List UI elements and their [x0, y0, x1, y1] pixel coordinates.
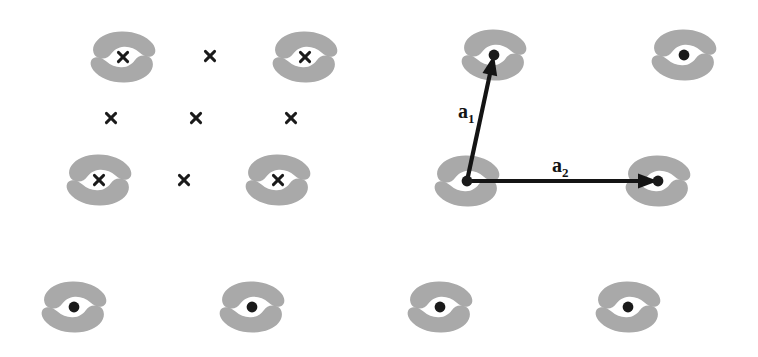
lattice-point-dot — [435, 302, 446, 313]
lattice-point-dot — [679, 50, 690, 61]
lattice-point-cross — [179, 175, 188, 184]
lattice-point-dot — [247, 302, 258, 313]
lattice-point-cross — [106, 113, 115, 122]
vector-label-subscript: 1 — [468, 111, 475, 126]
lattice-point-cross — [286, 113, 295, 122]
lattice-point-cross — [300, 52, 309, 61]
vector-label-subscript: 2 — [562, 165, 569, 180]
vector-label-base: a — [458, 100, 468, 122]
lattice-point-dot — [489, 50, 500, 61]
lattice-point-cross — [118, 52, 127, 61]
lattice-point-cross — [273, 175, 282, 184]
vector-label-base: a — [552, 154, 562, 176]
vector-label-a1: a1 — [458, 100, 475, 126]
lattice-point-dot — [69, 302, 80, 313]
lattice-canvas: a1a2 — [0, 0, 758, 357]
lattice-point-dot — [462, 176, 473, 187]
lattice-point-dot — [623, 302, 634, 313]
vector-label-a2: a2 — [552, 154, 569, 180]
lattice-point-cross — [191, 113, 200, 122]
lattice-point-cross — [94, 175, 103, 184]
lattice-point-dot — [653, 176, 664, 187]
lattice-figure: a1a2 — [0, 0, 758, 357]
lattice-point-cross — [205, 51, 214, 60]
